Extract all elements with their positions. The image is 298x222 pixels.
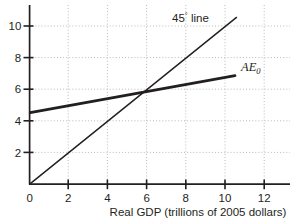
label-45-value: 45	[172, 12, 185, 24]
chart-container: 2 4 6 8 10 0 2 4 6 8 10 12 45° line AE0 …	[0, 0, 298, 222]
xtick-label-8: 8	[183, 192, 189, 204]
xtick-label-6: 6	[143, 192, 149, 204]
expenditure-chart: 2 4 6 8 10 0 2 4 6 8 10 12 45° line AE0 …	[0, 0, 298, 222]
ytick-label-4: 4	[15, 115, 22, 127]
label-ae0-base: AE	[240, 60, 257, 74]
xtick-label-4: 4	[104, 192, 111, 204]
label-45-degree-line: 45° line	[172, 11, 209, 24]
label-45-suffix: line	[188, 12, 209, 24]
xtick-label-0: 0	[26, 192, 32, 204]
xtick-label-10: 10	[219, 192, 232, 204]
ytick-label-2: 2	[15, 147, 21, 159]
ytick-label-6: 6	[15, 83, 21, 95]
x-axis-title: Real GDP (trillions of 2005 dollars)	[110, 206, 287, 218]
xtick-label-2: 2	[65, 192, 71, 204]
xtick-label-12: 12	[258, 192, 271, 204]
ytick-label-8: 8	[15, 52, 21, 64]
ytick-label-10: 10	[9, 20, 22, 32]
